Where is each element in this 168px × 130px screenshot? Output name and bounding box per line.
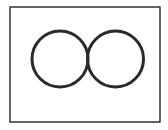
diagram-canvas bbox=[0, 0, 168, 130]
left-circle bbox=[32, 31, 88, 87]
right-circle bbox=[88, 31, 144, 87]
